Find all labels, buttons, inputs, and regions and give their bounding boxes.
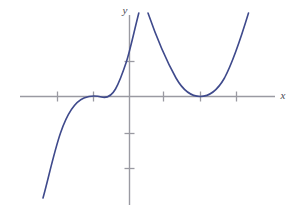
plot-background — [0, 0, 301, 213]
cartesian-plot: y x — [0, 0, 301, 213]
x-axis-label: x — [280, 89, 286, 101]
y-axis-label: y — [122, 4, 128, 16]
graph-figure: y x — [0, 0, 301, 213]
